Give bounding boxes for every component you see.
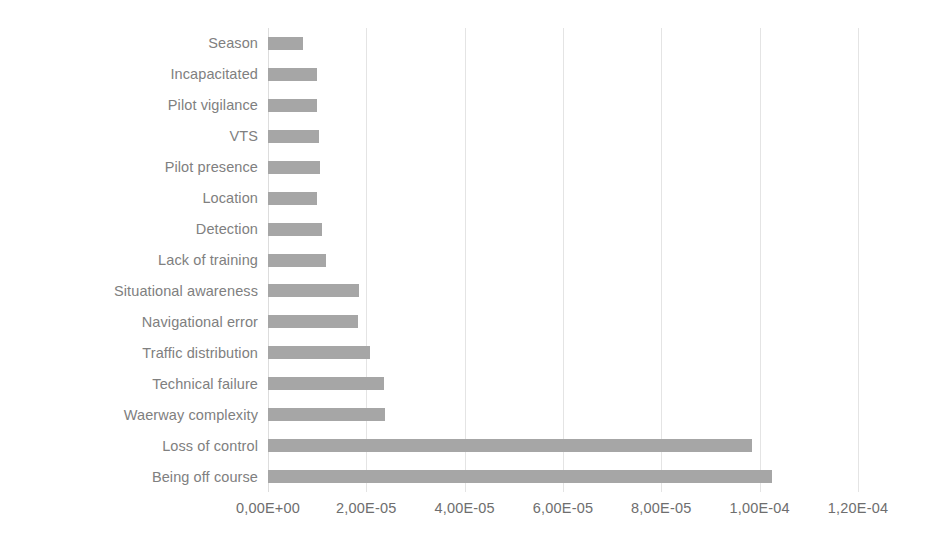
category-label: Pilot presence (0, 159, 258, 175)
x-tick-label: 1,00E-04 (729, 500, 789, 516)
x-tick-label: 1,20E-04 (828, 500, 888, 516)
category-label: Location (0, 190, 258, 206)
category-label: Waerway complexity (0, 407, 258, 423)
bar (268, 439, 752, 452)
bar (268, 37, 303, 50)
x-tick-label: 8,00E-05 (631, 500, 691, 516)
bar (268, 470, 772, 483)
bar (268, 284, 359, 297)
bar (268, 99, 317, 112)
bar (268, 346, 370, 359)
category-label: Detection (0, 221, 258, 237)
x-tick-label: 4,00E-05 (434, 500, 494, 516)
bar (268, 161, 320, 174)
category-label: Being off course (0, 469, 258, 485)
category-label: Situational awareness (0, 283, 258, 299)
x-tick-label: 6,00E-05 (533, 500, 593, 516)
category-label: Lack of training (0, 252, 258, 268)
plot-area (268, 28, 858, 492)
bar (268, 408, 385, 421)
category-label: Incapacitated (0, 66, 258, 82)
bar-chart: SeasonIncapacitatedPilot vigilanceVTSPil… (0, 0, 932, 552)
bar (268, 377, 384, 390)
bar (268, 130, 319, 143)
category-label: Loss of control (0, 438, 258, 454)
bar (268, 223, 322, 236)
gridline-6 (858, 28, 859, 492)
category-axis-labels: SeasonIncapacitatedPilot vigilanceVTSPil… (0, 28, 258, 492)
x-tick-label: 0,00E+00 (236, 500, 300, 516)
category-label: Technical failure (0, 376, 258, 392)
category-label: Traffic distribution (0, 345, 258, 361)
bar (268, 254, 326, 267)
category-label: Season (0, 35, 258, 51)
bar (268, 315, 358, 328)
category-label: Pilot vigilance (0, 97, 258, 113)
category-label: VTS (0, 128, 258, 144)
x-axis-tick-labels: 0,00E+002,00E-054,00E-056,00E-058,00E-05… (268, 500, 858, 524)
bars-layer (268, 28, 858, 492)
x-tick-label: 2,00E-05 (336, 500, 396, 516)
bar (268, 192, 317, 205)
bar (268, 68, 317, 81)
category-label: Navigational error (0, 314, 258, 330)
